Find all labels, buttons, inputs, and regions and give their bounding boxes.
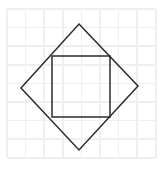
geometry-figure-svg: [0, 0, 161, 177]
geometry-figure-canvas: [0, 0, 161, 177]
